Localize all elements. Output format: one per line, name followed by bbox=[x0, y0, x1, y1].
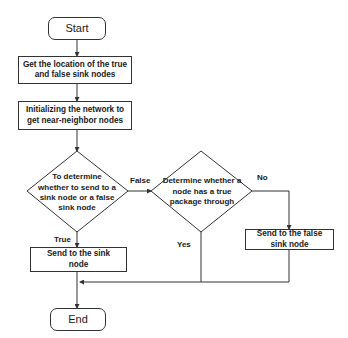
send-to-false-sink-step: Send to the false sink node bbox=[245, 229, 334, 250]
end-label: End bbox=[68, 313, 88, 327]
decision-2-label: Determine whether a node has a true pack… bbox=[162, 176, 242, 207]
get-location-step: Get the location of the true and false s… bbox=[18, 56, 132, 84]
send-to-sink-step: Send to the sink node bbox=[30, 247, 127, 272]
end-terminal: End bbox=[50, 308, 106, 331]
true-edge-label: True bbox=[54, 235, 71, 244]
send-to-sink-label: Send to the sink node bbox=[45, 249, 112, 270]
get-location-label: Get the location of the true and false s… bbox=[22, 60, 128, 81]
yes-edge-label: Yes bbox=[177, 240, 191, 249]
false-edge-label: False bbox=[130, 176, 150, 185]
decision-2-text: Determine whether a node has a true pack… bbox=[162, 162, 242, 222]
decision-1-label: To determine whether to send to a sink n… bbox=[38, 172, 116, 214]
start-terminal: Start bbox=[48, 17, 106, 40]
initialize-network-step: Initializing the network to get near-nei… bbox=[18, 101, 132, 130]
decision-1-text: To determine whether to send to a sink n… bbox=[38, 162, 116, 224]
initialize-network-label: Initializing the network to get near-nei… bbox=[25, 105, 125, 126]
no-edge-label: No bbox=[257, 173, 268, 182]
send-to-false-sink-label: Send to the false sink node bbox=[256, 229, 323, 250]
start-label: Start bbox=[65, 22, 88, 36]
